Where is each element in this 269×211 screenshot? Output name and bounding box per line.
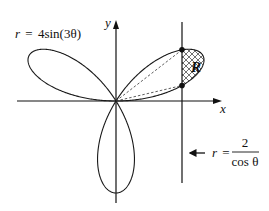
y-axis-arrow-icon (113, 20, 119, 29)
x-axis-label: x (219, 101, 226, 116)
y-axis-label: y (103, 15, 111, 30)
intersection-point-lower (179, 83, 185, 89)
polar-diagram: y x R r = 4sin(3θ) r = 2 cos θ (0, 0, 269, 211)
line-equation-denominator: cos θ (232, 154, 259, 169)
rose-equation-label: r = 4sin(3θ) (15, 26, 81, 41)
region-r-hatch (116, 49, 204, 101)
line-equation-numerator: 2 (242, 135, 249, 150)
intersection-point-upper (179, 47, 185, 53)
line-equation-lhs: r = (212, 145, 230, 160)
region-label: R (190, 59, 201, 75)
